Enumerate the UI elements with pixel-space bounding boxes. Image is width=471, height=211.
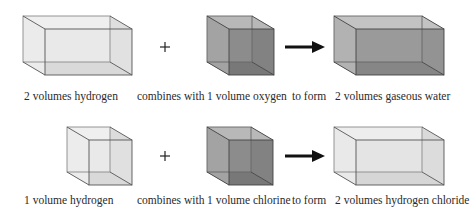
label-reactant1: 2 volumes hydrogen	[24, 90, 118, 102]
label-product: 2 volumes hydrogen chloride	[335, 194, 469, 206]
label-product: 2 volumes gaseous water	[335, 90, 450, 102]
label-reactant2: 1 volume oxygen	[207, 90, 287, 102]
label-reactant2: 1 volume chlorine	[207, 194, 291, 206]
box-1-volume-hydrogen	[67, 127, 132, 185]
label-reactant1: 1 volume hydrogen	[24, 194, 113, 206]
gas-volume-diagram	[0, 0, 471, 211]
box-2-volumes-hydrogen-chloride	[334, 127, 444, 185]
box-2-volumes-gaseous-water	[334, 16, 444, 75]
box-2-volumes-hydrogen	[23, 16, 132, 75]
arrow-right-icon	[285, 41, 325, 53]
box-1-volume-chlorine	[207, 127, 273, 185]
plus-icon	[160, 151, 170, 161]
label-relation: to form	[292, 194, 326, 206]
label-connector: combines with	[137, 90, 204, 102]
label-connector: combines with	[137, 194, 204, 206]
label-relation: to form	[292, 90, 326, 102]
plus-icon	[160, 42, 170, 52]
arrow-right-icon	[285, 150, 325, 162]
box-1-volume-oxygen	[207, 16, 274, 75]
